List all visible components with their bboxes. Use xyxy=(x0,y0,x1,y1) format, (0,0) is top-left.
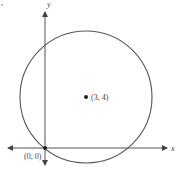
origin-point xyxy=(43,146,47,150)
circle-diagram: (3, 4) (0, 0) y x xyxy=(0,0,176,169)
y-axis-label: y xyxy=(46,0,51,9)
center-point xyxy=(84,95,88,99)
center-label: (3, 4) xyxy=(91,93,109,102)
origin-label: (0, 0) xyxy=(24,152,42,161)
stray-mark xyxy=(1,4,3,6)
x-axis-label: x xyxy=(170,144,175,153)
